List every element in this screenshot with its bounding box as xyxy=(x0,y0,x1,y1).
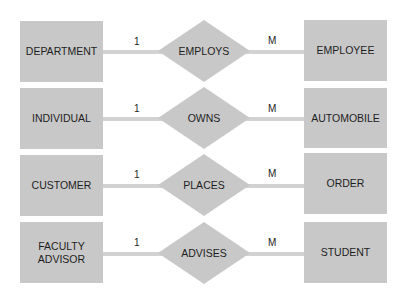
connector-left xyxy=(103,50,163,54)
relationship-owns: OWNS xyxy=(158,87,250,149)
entity-label: INDIVIDUAL xyxy=(32,112,91,125)
connector-right xyxy=(246,50,306,54)
cardinality-right: M xyxy=(268,35,276,46)
relationship-places: PLACES xyxy=(158,154,250,216)
entity-label: CUSTOMER xyxy=(32,179,92,192)
cardinality-left: 1 xyxy=(134,103,140,114)
relationship-row-employs: DEPARTMENT 1 EMPLOYS M EMPLOYEE xyxy=(0,20,403,82)
connector-left xyxy=(103,252,163,256)
entity-label: ORDER xyxy=(327,177,365,190)
entity-label-line1: FACULTY xyxy=(38,240,84,253)
er-diagram: DEPARTMENT 1 EMPLOYS M EMPLOYEE INDIVIDU… xyxy=(0,0,403,295)
cardinality-left: 1 xyxy=(134,169,140,180)
cardinality-right: M xyxy=(268,168,276,179)
entity-label: STUDENT xyxy=(321,246,371,259)
entity-label-line2: ADVISOR xyxy=(38,253,85,266)
relationship-row-advises: FACULTY ADVISOR 1 ADVISES M STUDENT xyxy=(0,222,403,284)
relationship-label: ADVISES xyxy=(158,222,250,284)
cardinality-left: 1 xyxy=(134,237,140,248)
entity-label: EMPLOYEE xyxy=(317,44,375,57)
cardinality-left: 1 xyxy=(134,36,140,47)
relationship-employs: EMPLOYS xyxy=(158,20,250,82)
cardinality-right: M xyxy=(268,103,276,114)
relationship-row-places: CUSTOMER 1 PLACES M ORDER xyxy=(0,155,403,217)
entity-student: STUDENT xyxy=(304,222,387,283)
entity-customer: CUSTOMER xyxy=(20,155,103,216)
entity-individual: INDIVIDUAL xyxy=(20,88,103,149)
connector-left xyxy=(103,184,163,188)
relationship-advises: ADVISES xyxy=(158,222,250,284)
connector-right xyxy=(246,117,306,121)
entity-faculty-advisor: FACULTY ADVISOR xyxy=(20,222,103,283)
entity-employee: EMPLOYEE xyxy=(304,20,387,81)
relationship-label: EMPLOYS xyxy=(158,20,250,82)
entity-label: DEPARTMENT xyxy=(26,45,97,58)
connector-right xyxy=(246,252,306,256)
entity-label: AUTOMOBILE xyxy=(311,112,380,125)
connector-left xyxy=(103,117,163,121)
relationship-label: OWNS xyxy=(158,87,250,149)
connector-right xyxy=(246,184,306,188)
relationship-label: PLACES xyxy=(158,154,250,216)
entity-order: ORDER xyxy=(304,153,387,214)
cardinality-right: M xyxy=(268,237,276,248)
entity-automobile: AUTOMOBILE xyxy=(304,88,387,148)
entity-department: DEPARTMENT xyxy=(20,21,103,82)
relationship-row-owns: INDIVIDUAL 1 OWNS M AUTOMOBILE xyxy=(0,88,403,150)
